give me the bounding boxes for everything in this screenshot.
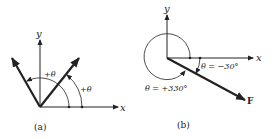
x-axis-label: x — [256, 52, 262, 63]
y-axis-label: y — [35, 28, 42, 39]
vector-left — [12, 58, 40, 107]
angle-label-negative: θ = −30° — [201, 62, 239, 71]
figure-a: y x +θ +θ (a) — [12, 28, 126, 132]
angle-arc-negative — [196, 58, 200, 73]
x-axis-label: x — [120, 102, 126, 113]
caption-b: (b) — [177, 120, 190, 130]
force-label: F — [247, 96, 254, 106]
vector-right — [40, 58, 79, 107]
caption-a: (a) — [34, 122, 46, 132]
angle-label-positive: θ = +330° — [145, 84, 188, 93]
angle-label-outer: +θ — [80, 85, 92, 94]
y-axis-label: y — [163, 3, 170, 14]
angle-arc-inner — [27, 78, 69, 107]
angle-label-inner: +θ — [44, 70, 56, 79]
vector-angle-diagram: y x +θ +θ (a) y x θ = −30° θ = +330° F (… — [0, 0, 275, 139]
figure-b: y x θ = −30° θ = +330° F (b) — [144, 3, 262, 130]
